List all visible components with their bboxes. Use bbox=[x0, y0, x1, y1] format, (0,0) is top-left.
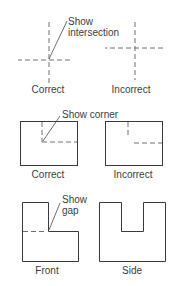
row1-correct-panel: Show intersection Correct bbox=[18, 16, 119, 95]
callout-show-corner: Show corner bbox=[62, 109, 119, 120]
label-front: Front bbox=[35, 265, 59, 276]
row3-front-panel: Show gap Front bbox=[23, 194, 88, 276]
side-view-outline bbox=[100, 203, 166, 262]
row3-side-panel: Side bbox=[100, 203, 166, 277]
callout-show: Show bbox=[62, 194, 88, 205]
hidden-line-conventions-diagram: Show intersection Correct Incorrect Show… bbox=[0, 0, 174, 286]
label-correct: Correct bbox=[32, 84, 65, 95]
label-correct: Correct bbox=[32, 169, 65, 180]
leader-line bbox=[43, 116, 60, 141]
leader-line bbox=[49, 203, 60, 230]
row2-correct-panel: Show corner Correct bbox=[21, 109, 119, 180]
leader-line bbox=[49, 21, 67, 59]
label-incorrect: Incorrect bbox=[114, 169, 153, 180]
callout-intersection: intersection bbox=[68, 27, 119, 38]
row2-incorrect-panel: Incorrect bbox=[106, 122, 163, 181]
label-side: Side bbox=[122, 265, 142, 276]
label-incorrect: Incorrect bbox=[112, 84, 151, 95]
outline-box bbox=[21, 122, 78, 166]
callout-show: Show bbox=[68, 16, 94, 27]
callout-gap: gap bbox=[62, 205, 79, 216]
